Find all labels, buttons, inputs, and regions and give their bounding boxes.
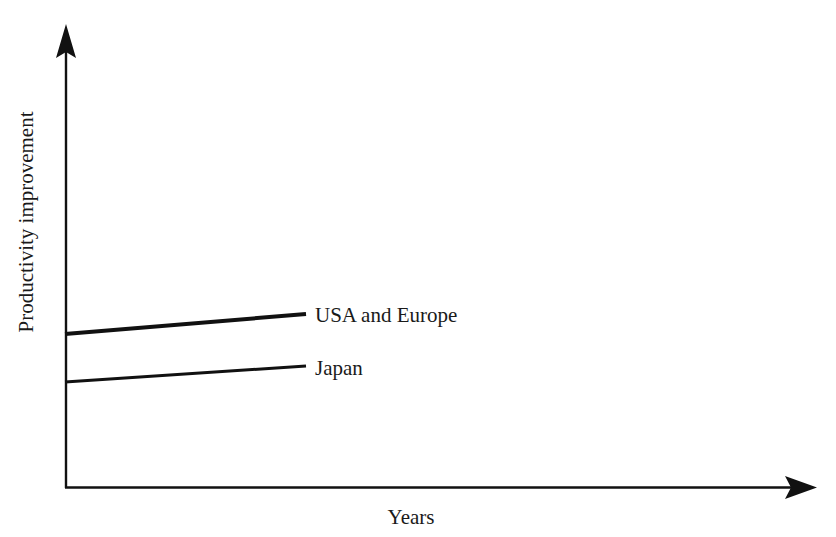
series-label-japan: Japan (315, 356, 363, 380)
productivity-improvement-figure: USA and Europe Japan Years Productivity … (0, 0, 836, 537)
series-line-usa-and-europe (65, 314, 306, 334)
y-axis-title: Productivity improvement (14, 111, 38, 332)
x-axis-title: Years (388, 505, 435, 529)
chart-canvas: USA and Europe Japan Years Productivity … (0, 0, 836, 537)
series-label-usa-and-europe: USA and Europe (315, 303, 457, 327)
series-line-japan (65, 366, 306, 382)
